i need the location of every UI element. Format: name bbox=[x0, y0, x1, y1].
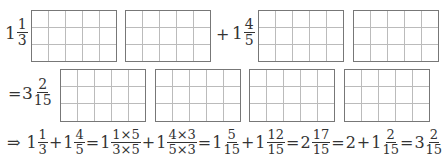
denominator: 15 bbox=[268, 143, 285, 157]
fraction: 1715 bbox=[312, 128, 331, 157]
grid-box-5 bbox=[60, 69, 146, 122]
numerator: 2 bbox=[386, 128, 396, 143]
fraction: 1 3 bbox=[17, 17, 28, 48]
numerator: 4×3 bbox=[167, 128, 196, 143]
denominator: 3 bbox=[39, 143, 47, 157]
operator: + bbox=[49, 133, 62, 152]
fraction: 215 bbox=[426, 128, 443, 157]
grid-box-7 bbox=[249, 69, 335, 122]
equals-sign: = bbox=[8, 84, 21, 103]
mixed-number-3-2-15: 3 2 15 bbox=[22, 77, 52, 108]
plus-sign: + bbox=[216, 25, 229, 44]
grid-box-2 bbox=[125, 10, 211, 62]
numerator: 17 bbox=[312, 128, 331, 143]
operator: = bbox=[198, 133, 211, 152]
operator: + bbox=[357, 133, 370, 152]
denominator: 15 bbox=[382, 143, 399, 157]
whole-part: 1 bbox=[63, 133, 73, 152]
numerator: 12 bbox=[267, 128, 286, 143]
numerator: 1 bbox=[38, 128, 48, 143]
whole-part: 1 bbox=[26, 133, 36, 152]
numerator: 4 bbox=[74, 128, 84, 143]
denominator: 15 bbox=[313, 143, 330, 157]
fraction: 215 bbox=[382, 128, 399, 157]
solution-equation: ⇒ 1 13 + 1 45 = 1 1×53×5 + 1 4×35×3 = 1 … bbox=[6, 128, 442, 157]
grid-box-8 bbox=[344, 69, 430, 122]
operator: = bbox=[400, 133, 413, 152]
whole-part: 3 bbox=[414, 133, 424, 152]
whole-number: 2 bbox=[346, 133, 356, 152]
implies-arrow: ⇒ bbox=[7, 133, 20, 152]
whole-part: 1 bbox=[5, 23, 16, 43]
denominator: 5×3 bbox=[168, 143, 195, 157]
denominator: 3×5 bbox=[112, 143, 139, 157]
fraction: 1215 bbox=[267, 128, 286, 157]
fraction: 45 bbox=[74, 128, 84, 157]
whole-part: 1 bbox=[156, 133, 166, 152]
fraction: 1×53×5 bbox=[111, 128, 140, 157]
fraction: 2 15 bbox=[34, 77, 52, 108]
operator: + bbox=[241, 133, 254, 152]
fraction: 4 5 bbox=[244, 17, 255, 48]
whole-part: 1 bbox=[100, 133, 110, 152]
whole-part: 1 bbox=[212, 133, 222, 152]
denominator: 15 bbox=[223, 143, 240, 157]
whole-part: 3 bbox=[22, 83, 33, 103]
numerator: 5 bbox=[227, 128, 237, 143]
grid-box-3 bbox=[258, 10, 344, 62]
denominator: 5 bbox=[245, 33, 254, 48]
mixed-number-1-4-5: 1 4 5 bbox=[232, 17, 255, 48]
whole-part: 1 bbox=[371, 133, 381, 152]
numerator: 2 bbox=[429, 128, 439, 143]
operator: = bbox=[331, 133, 344, 152]
operator: + bbox=[142, 133, 155, 152]
fraction: 13 bbox=[38, 128, 48, 157]
denominator: 5 bbox=[75, 143, 83, 157]
grid-box-1 bbox=[31, 10, 117, 62]
fraction: 4×35×3 bbox=[167, 128, 196, 157]
grid-box-4 bbox=[353, 10, 439, 62]
whole-part: 2 bbox=[301, 133, 311, 152]
fraction: 515 bbox=[223, 128, 240, 157]
numerator: 1 bbox=[17, 17, 28, 33]
denominator: 15 bbox=[426, 143, 443, 157]
operator: = bbox=[286, 133, 299, 152]
numerator: 2 bbox=[37, 77, 48, 93]
numerator: 4 bbox=[244, 17, 255, 33]
operator: = bbox=[86, 133, 99, 152]
whole-part: 1 bbox=[232, 23, 243, 43]
whole-part: 1 bbox=[255, 133, 265, 152]
numerator: 1×5 bbox=[111, 128, 140, 143]
grid-box-6 bbox=[155, 69, 241, 122]
mixed-number-1-1-3: 1 1 3 bbox=[5, 17, 28, 48]
denominator: 15 bbox=[34, 93, 52, 108]
denominator: 3 bbox=[18, 33, 27, 48]
